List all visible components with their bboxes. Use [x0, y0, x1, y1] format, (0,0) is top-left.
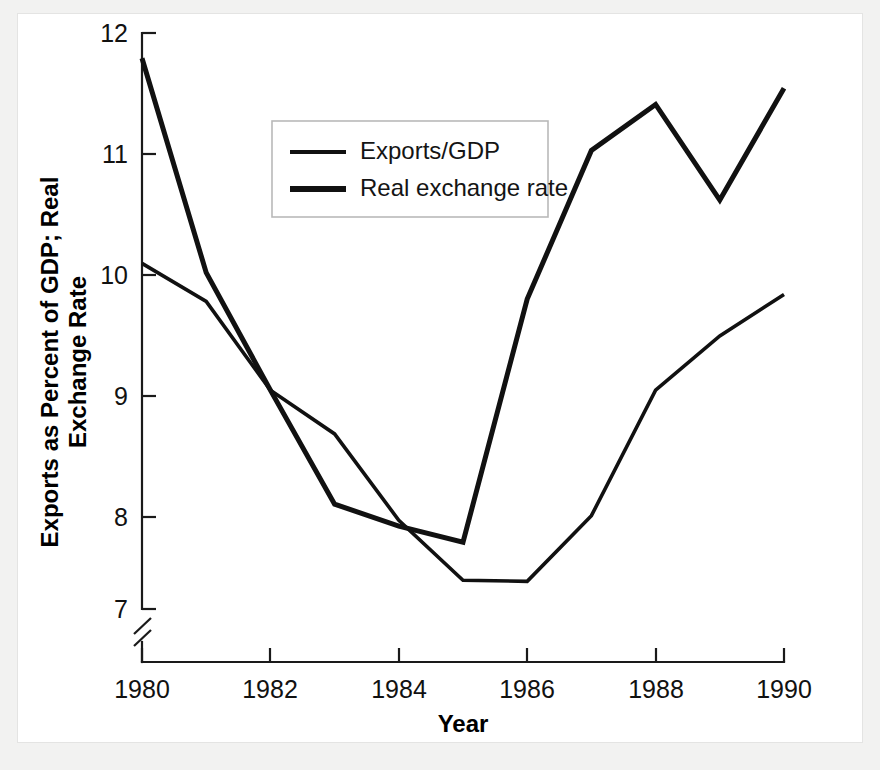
x-tick-label-1988: 1988 [628, 675, 684, 703]
y-tick-label-9: 9 [114, 382, 128, 410]
chart-legend: Exports/GDP Real exchange rate [272, 121, 568, 217]
y-axis-title: Exports as Percent of GDP; Real Exchange… [36, 177, 91, 548]
legend-label-exports-gdp: Exports/GDP [360, 137, 500, 164]
y-tick-label-11: 11 [102, 140, 128, 168]
x-tick-label-1982: 1982 [242, 675, 298, 703]
y-ticks: 12 11 10 9 8 7 [100, 19, 156, 623]
line-chart: Exports as Percent of GDP; Real Exchange… [18, 14, 862, 742]
y-tick-label-7: 7 [114, 595, 128, 623]
chart-page: Exports as Percent of GDP; Real Exchange… [0, 0, 880, 770]
chart-svg: Exports as Percent of GDP; Real Exchange… [18, 14, 862, 742]
figure-panel: Exports as Percent of GDP; Real Exchange… [18, 14, 862, 742]
y-tick-label-8: 8 [114, 503, 128, 531]
y-axis-title-line2: Exchange Rate [64, 276, 91, 448]
legend-label-real-exchange-rate: Real exchange rate [360, 174, 568, 201]
x-tick-label-1984: 1984 [371, 675, 427, 703]
x-tick-label-1990: 1990 [756, 675, 812, 703]
x-tick-label-1980: 1980 [114, 675, 170, 703]
y-tick-label-10: 10 [100, 261, 128, 289]
x-axis-title: Year [438, 710, 489, 737]
y-tick-label-12: 12 [100, 19, 128, 47]
y-axis-title-line1: Exports as Percent of GDP; Real [36, 177, 63, 548]
x-tick-label-1986: 1986 [499, 675, 555, 703]
legend-box [272, 121, 548, 217]
x-ticks: 1980 1982 1984 1986 1988 1990 [114, 648, 812, 703]
